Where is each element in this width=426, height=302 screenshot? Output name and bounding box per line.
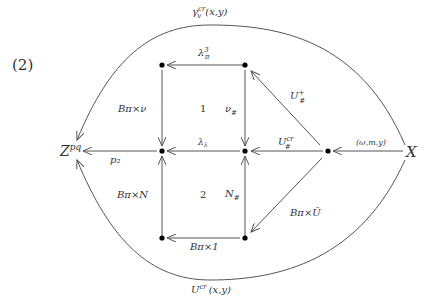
node-bottom-left <box>159 235 164 240</box>
p2-label: p₂ <box>110 154 120 165</box>
node-top-left <box>159 62 164 67</box>
equation-number: (2) <box>12 56 33 74</box>
right-lower-label: N# <box>224 188 240 202</box>
node-mid-left <box>159 148 164 153</box>
top-edge-label: λ3π <box>197 46 210 61</box>
bottom-curve-arrow <box>77 160 405 280</box>
node-x: X <box>405 143 418 161</box>
node-top-right <box>242 62 247 67</box>
diag-lower-label: Bπ×Ū <box>289 207 321 218</box>
u-plus-edge-label: U+# <box>290 89 305 105</box>
u-cr-edge-label: Ucr# <box>278 135 294 151</box>
region-1-label: 1 <box>200 103 206 114</box>
top-curve-label: γcrv(x,y) <box>192 5 228 20</box>
commutative-diagram: (2) Zpq X γcrv(x,y) Ucr(x,y) λ3π Bπ×ν Bπ… <box>0 0 426 302</box>
u-plus-arrow <box>251 71 320 145</box>
top-curve-arrow <box>77 25 405 145</box>
node-bottom-right <box>242 235 247 240</box>
x-edge-label: (ω,m,y) <box>356 138 386 147</box>
right-upper-label: ν# <box>225 103 237 117</box>
node-mid-far <box>325 148 330 153</box>
left-upper-label: Bπ×ν <box>117 103 146 114</box>
node-mid-right <box>242 148 247 153</box>
region-2-label: 2 <box>200 189 206 200</box>
mid-edge-label: λλ <box>197 137 208 148</box>
bottom-edge-label: Bπ×1 <box>189 241 219 252</box>
diag-lower-arrow <box>251 158 322 232</box>
bottom-curve-label: Ucr(x,y) <box>191 283 231 295</box>
left-lower-label: Bπ×N <box>116 189 149 200</box>
node-z: Zpq <box>59 142 81 159</box>
